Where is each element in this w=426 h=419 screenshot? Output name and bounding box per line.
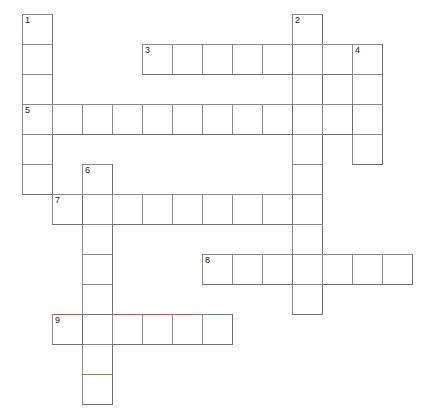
crossword-cell[interactable] xyxy=(292,284,323,315)
crossword-cell[interactable] xyxy=(82,224,113,255)
crossword-clue-number: 4 xyxy=(355,45,360,56)
crossword-cell[interactable] xyxy=(322,254,353,285)
crossword-cell[interactable] xyxy=(292,134,323,165)
crossword-cell[interactable] xyxy=(232,254,263,285)
crossword-cell[interactable] xyxy=(262,194,293,225)
crossword-cell[interactable] xyxy=(352,254,383,285)
crossword-cell[interactable] xyxy=(232,194,263,225)
crossword-cell[interactable] xyxy=(352,104,383,135)
crossword-cell-numbered[interactable]: 5 xyxy=(22,104,53,135)
crossword-cell-numbered[interactable]: 4 xyxy=(352,44,383,75)
crossword-cell[interactable] xyxy=(112,104,143,135)
crossword-cell-numbered[interactable]: 9 xyxy=(52,314,83,345)
crossword-cell[interactable] xyxy=(82,284,113,315)
crossword-clue-number: 1 xyxy=(25,15,30,26)
crossword-clue-number: 6 xyxy=(85,165,90,176)
crossword-cell[interactable] xyxy=(142,194,173,225)
crossword-clue-number: 7 xyxy=(55,195,60,206)
crossword-cell[interactable] xyxy=(22,44,53,75)
crossword-cell[interactable] xyxy=(82,104,113,135)
crossword-cell[interactable] xyxy=(172,104,203,135)
crossword-cell[interactable] xyxy=(22,134,53,165)
crossword-clue-number: 8 xyxy=(205,255,210,266)
crossword-clue-number: 3 xyxy=(145,45,150,56)
crossword-cell[interactable] xyxy=(112,194,143,225)
crossword-cell[interactable] xyxy=(262,104,293,135)
crossword-cell[interactable] xyxy=(322,104,353,135)
crossword-cell[interactable] xyxy=(262,254,293,285)
crossword-cell[interactable] xyxy=(232,44,263,75)
crossword-cell-numbered[interactable]: 7 xyxy=(52,194,83,225)
crossword-cell[interactable] xyxy=(292,254,323,285)
crossword-cell[interactable] xyxy=(352,134,383,165)
crossword-cell[interactable] xyxy=(22,74,53,105)
crossword-cell[interactable] xyxy=(82,344,113,375)
crossword-cell[interactable] xyxy=(352,74,383,105)
crossword-cell[interactable] xyxy=(82,374,113,405)
crossword-cell[interactable] xyxy=(382,254,413,285)
crossword-cell[interactable] xyxy=(172,44,203,75)
crossword-cell[interactable] xyxy=(142,314,173,345)
crossword-cell[interactable] xyxy=(292,104,323,135)
crossword-cell[interactable] xyxy=(82,254,113,285)
crossword-clue-number: 2 xyxy=(295,15,300,26)
crossword-clue-number: 5 xyxy=(25,105,30,116)
crossword-cell[interactable] xyxy=(232,104,263,135)
crossword-cell[interactable] xyxy=(172,194,203,225)
crossword-cell[interactable] xyxy=(292,224,323,255)
crossword-cell-numbered[interactable]: 2 xyxy=(292,14,323,45)
crossword-grid[interactable]: 152346789 xyxy=(0,0,426,419)
crossword-cell[interactable] xyxy=(202,44,233,75)
crossword-cell-numbered[interactable]: 3 xyxy=(142,44,173,75)
crossword-cell-numbered[interactable]: 6 xyxy=(82,164,113,195)
crossword-cell-numbered[interactable]: 1 xyxy=(22,14,53,45)
crossword-cell[interactable] xyxy=(292,164,323,195)
crossword-cell[interactable] xyxy=(52,104,83,135)
crossword-cell[interactable] xyxy=(292,44,323,75)
crossword-cell[interactable] xyxy=(202,104,233,135)
crossword-cell[interactable] xyxy=(82,194,113,225)
crossword-cell[interactable] xyxy=(202,314,233,345)
crossword-cell[interactable] xyxy=(322,44,353,75)
crossword-cell-numbered[interactable]: 8 xyxy=(202,254,233,285)
crossword-cell[interactable] xyxy=(262,44,293,75)
crossword-cell[interactable] xyxy=(292,194,323,225)
crossword-cell[interactable] xyxy=(172,314,203,345)
crossword-cell[interactable] xyxy=(202,194,233,225)
crossword-cell[interactable] xyxy=(142,104,173,135)
crossword-cell[interactable] xyxy=(112,314,143,345)
crossword-clue-number: 9 xyxy=(55,315,60,326)
crossword-cell[interactable] xyxy=(22,164,53,195)
crossword-cell[interactable] xyxy=(292,74,323,105)
